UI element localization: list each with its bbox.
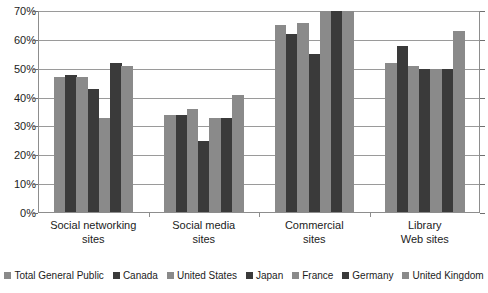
legend-swatch-icon [246,272,253,279]
y-axis-line [38,11,39,213]
legend-item[interactable]: France [292,270,333,281]
bar [309,54,321,213]
bar [320,11,332,213]
bar [286,34,298,213]
bar-group [370,11,481,213]
legend-item[interactable]: Total General Public [4,270,104,281]
bar [76,77,88,213]
bar [442,69,454,213]
bar [397,46,409,213]
bar [54,77,66,213]
y-axis-tick-mark-right [480,98,485,99]
legend-item[interactable]: Germany [342,270,393,281]
legend-item[interactable]: United Kingdom [402,270,483,281]
x-axis-category-label-line: Web sites [370,233,481,247]
y-axis-tick-mark-right [480,40,485,41]
legend-swatch-icon [4,272,11,279]
legend-swatch-icon [402,272,409,279]
y-axis-tick-mark-right [480,69,485,70]
bar [176,115,188,213]
x-axis-category-label-line: sites [38,233,149,247]
bar [121,66,133,213]
bar [342,11,354,213]
y-axis-tick-mark-right [480,184,485,185]
legend-swatch-icon [292,272,299,279]
bar [198,141,210,213]
x-axis-category-label-line: Library [370,219,481,233]
legend-label: Total General Public [14,270,104,281]
bar [419,69,431,213]
y-axis-tick-mark-right [480,11,485,12]
x-axis-line [38,212,480,213]
bar [453,31,465,213]
legend-item[interactable]: Japan [246,270,283,281]
category-separator [370,213,371,217]
bar [187,109,199,213]
x-axis-category-label-line: Social networking [38,219,149,233]
y-axis-tick-mark-right [480,126,485,127]
bar-group [259,11,370,213]
x-axis-category-label: Commercialsites [259,219,370,246]
chart-legend: Total General PublicCanadaUnited StatesJ… [0,270,488,281]
bar [408,66,420,213]
category-separator [149,213,150,217]
legend-swatch-icon [167,272,174,279]
y-axis-tick-mark [33,213,38,214]
bar [385,63,397,213]
x-axis-category-label: Social networkingsites [38,219,149,246]
legend-label: Japan [256,270,283,281]
x-axis-category-label: LibraryWeb sites [370,219,481,246]
x-axis-category-label: Social mediasites [149,219,260,246]
bar [331,11,343,213]
legend-label: France [302,270,333,281]
bar [209,118,221,213]
legend-swatch-icon [113,272,120,279]
bar [88,89,100,213]
bar [164,115,176,213]
bar [99,118,111,213]
x-axis-category-label-line: sites [149,233,260,247]
y-axis-line-right [479,11,480,213]
bar-group [149,11,260,213]
legend-label: Germany [352,270,393,281]
bar [275,25,287,213]
legend-label: United States [177,270,237,281]
bar [221,118,233,213]
x-axis-category-label-line: Commercial [259,219,370,233]
legend-label: Canada [123,270,158,281]
bar-group [38,11,149,213]
y-axis-tick-mark-right [480,155,485,156]
x-axis-category-label-line: sites [259,233,370,247]
legend-label: United Kingdom [412,270,483,281]
x-axis-category-label-line: Social media [149,219,260,233]
bar [65,75,77,214]
y-axis-tick-mark-right [480,213,485,214]
legend-swatch-icon [342,272,349,279]
bar [297,23,309,213]
plot-area [38,11,480,213]
category-separator [259,213,260,217]
bar [232,95,244,213]
legend-item[interactable]: Canada [113,270,158,281]
bar-chart: 0%10%20%30%40%50%60%70% Social networkin… [0,0,488,293]
bar [110,63,122,213]
legend-item[interactable]: United States [167,270,237,281]
bar [430,69,442,213]
